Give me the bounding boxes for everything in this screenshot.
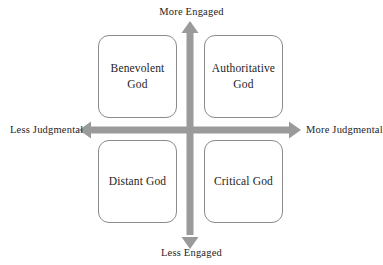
quadrant-authoritative-god: Authoritative God: [204, 35, 283, 118]
quadrant-label: Critical God: [210, 174, 277, 190]
axis-label-more-judgmental: More Judgmental: [306, 124, 383, 135]
quadrant-critical-god: Critical God: [204, 140, 283, 223]
arrowhead-right-icon: [289, 122, 301, 139]
quadrant-distant-god: Distant God: [98, 140, 177, 223]
axis-label-more-engaged: More Engaged: [0, 6, 383, 17]
quadrant-label: Authoritative God: [208, 61, 279, 92]
vertical-axis-arrow: [182, 21, 199, 249]
quadrant-diagram: Benevolent God Authoritative God Distant…: [0, 0, 383, 265]
axis-label-less-judgmental: Less Judgmental: [10, 124, 83, 135]
axis-label-less-engaged: Less Engaged: [0, 247, 383, 258]
arrowhead-up-icon: [182, 21, 199, 33]
quadrant-label: Benevolent God: [107, 61, 169, 92]
quadrant-label: Distant God: [105, 174, 171, 190]
quadrant-benevolent-god: Benevolent God: [98, 35, 177, 118]
